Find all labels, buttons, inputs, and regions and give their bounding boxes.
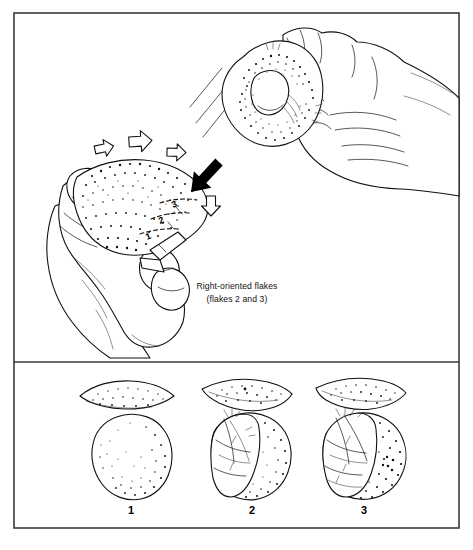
core-outline [74,160,208,255]
artifact-3-profile [316,378,406,409]
artifact-label-2: 2 [240,504,264,516]
artifact-1-profile [80,381,174,409]
upper-hand-with-hammerstone [190,28,459,196]
artifact-1-plan [92,414,172,500]
artifact-2 [202,379,292,499]
figure-root: 1 2 3 [0,0,473,550]
artifact-2-profile [202,379,292,410]
artifact-2-plan [211,409,291,500]
hollow-arrow-1 [93,138,115,159]
artifact-label-1: 1 [119,504,143,516]
figure-frame: 1 2 3 [0,0,473,550]
caption-line-1: Right-oriented flakes [197,280,278,293]
thumb-upper [251,71,289,115]
artifact-1 [80,381,174,500]
artifact-3-plan [323,408,406,499]
hollow-arrow-2 [128,130,152,153]
artifact-3 [316,378,406,499]
lower-hand-with-core: 1 2 3 [47,160,208,358]
hollow-arrow-3 [167,144,187,162]
artifact-label-3: 3 [352,504,376,516]
top-panel-caption: Right-oriented flakes (flakes 2 and 3) [197,280,278,306]
caption-line-2: (flakes 2 and 3) [197,293,278,306]
